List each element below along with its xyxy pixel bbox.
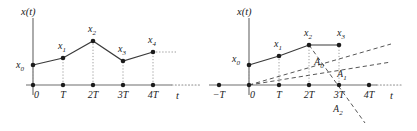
tick-dot-2T-left [91,83,95,87]
tick-label-3T-left: 3T [117,89,130,100]
point-label-x0-sub-right: 0 [236,59,240,67]
approx-label-A1-sub-right: 1 [343,74,347,82]
tick-dot-minusT-right [217,83,221,87]
approx-label-A0-sub-right: 0 [320,62,324,70]
point-label-x4-sub-left: 4 [152,40,156,48]
tick-label-0-right: 0 [250,89,255,100]
point-label-x1-sub-left: 1 [62,46,66,54]
point-label-x0-left: x0 [15,59,24,73]
point-label-x3-left: x3 [117,43,126,57]
tick-dot-2T-right [307,83,311,87]
y-axis-label-left: x(t) [20,6,36,18]
point-label-x4-left: x4 [147,34,156,48]
point-label-x2-left: x2 [87,23,96,37]
signal-polyline-right [249,45,339,65]
tick-label-2T-right: 2T [304,89,316,100]
tick-label-4T-left: 4T [148,89,160,100]
point-label-x3-sub-right: 3 [340,33,345,41]
tick-label-T-right: T [276,89,283,100]
x-axis-label-right: t [390,90,394,101]
sample-dot-x3-left [121,59,126,64]
tick-label-0-left: 0 [34,89,39,100]
point-label-x0-right: x0 [231,53,240,67]
point-label-x2-right: x2 [303,27,312,41]
point-label-x3-sub-left: 3 [121,49,126,57]
tick-label-2T-left: 2T [88,89,100,100]
sample-dot-x0-right [247,63,252,68]
point-label-x1-right: x1 [273,38,282,52]
sample-dot-x1-left [61,56,66,61]
tick-dot-T-right [277,83,281,87]
tick-dot-0-left [31,83,35,87]
y-axis-label-right: x(t) [236,6,252,18]
x-axis-label-left: t [176,90,180,101]
tick-label-3T-right: 3T [333,89,346,100]
approx-label-A1-right: A1 [336,69,346,82]
point-label-x2-sub-left: 2 [92,29,96,37]
sample-dot-x3-right [337,43,342,48]
tick-dot-3T-left [121,83,125,87]
sample-dot-x4-left [151,50,156,55]
chart-panel-right: x(t) t −T 0 T 2T 3T 4T x0 x1 x2 x3 A0 A1… [205,0,417,131]
figure-root: x(t) t 0 T 2T 3T 4T x0 x1 x2 x3 x4 [0,0,417,131]
approx-label-A2-sub-right: 2 [339,109,343,117]
point-label-x1-sub-right: 1 [278,44,282,52]
tick-dot-T-left [61,83,65,87]
tick-label-minusT-right: −T [213,89,227,100]
sample-dot-x1-right [277,54,282,59]
sample-dot-x0-left [31,63,36,68]
chart-panel-left: x(t) t 0 T 2T 3T 4T x0 x1 x2 x3 x4 [0,0,209,131]
sample-dot-x2-left [91,39,96,44]
point-label-x2-sub-right: 2 [308,33,312,41]
approx-label-A0-right: A0 [313,57,324,70]
point-label-x3-right: x3 [336,27,345,41]
point-label-x1-left: x1 [57,40,66,54]
tick-label-4T-right: 4T [364,89,376,100]
tick-dot-0-right [247,83,251,87]
approx-label-A2-right: A2 [332,104,343,117]
tick-dot-4T-left [151,83,155,87]
point-label-x0-sub-left: 0 [20,65,24,73]
sample-dot-x2-right [307,43,312,48]
tick-label-T-left: T [60,89,67,100]
tick-dot-3T-right [337,83,341,87]
tick-dot-4T-right [367,83,371,87]
